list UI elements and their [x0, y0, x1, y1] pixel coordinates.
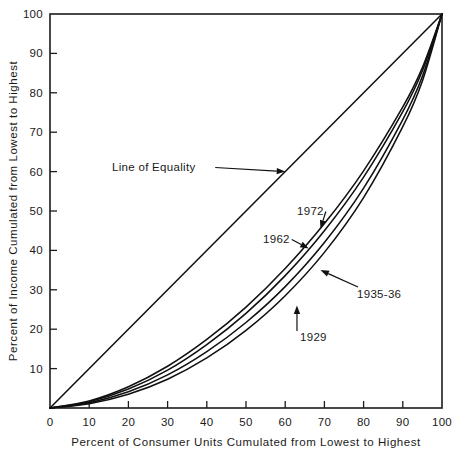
leader-arrowhead [294, 306, 300, 315]
annotation-leader-1929 [294, 306, 300, 331]
annotation-label-line-of-equality: Line of Equality [112, 161, 195, 173]
y-tick-label: 40 [30, 244, 43, 256]
annotation-leader-1962 [292, 240, 309, 249]
x-tick-label: 0 [47, 416, 54, 428]
x-tick-label: 40 [200, 416, 213, 428]
y-tick-label: 70 [30, 126, 43, 138]
y-tick-label: 20 [30, 323, 43, 335]
x-tick-label: 30 [161, 416, 174, 428]
y-tick-label: 30 [30, 284, 43, 296]
y-axis-title: Percent of Income Cumulated from Lowest … [7, 61, 19, 362]
x-axis-tick-labels: 0102030405060708090100 [47, 416, 452, 428]
x-tick-label: 70 [318, 416, 331, 428]
x-tick-label: 100 [432, 416, 452, 428]
y-tick-label: 10 [30, 363, 43, 375]
x-tick-label: 20 [122, 416, 135, 428]
annotation-leader-1935-36 [320, 270, 358, 287]
annotation-label-1929: 1929 [300, 331, 327, 343]
y-tick-label: 60 [30, 166, 43, 178]
annotation-label-1972: 1972 [297, 205, 324, 217]
leader-line [215, 168, 277, 172]
annotation-label-1962: 1962 [263, 233, 290, 245]
leader-line [292, 240, 301, 245]
x-tick-label: 80 [357, 416, 370, 428]
leader-arrowhead [320, 220, 326, 229]
y-tick-label: 50 [30, 205, 43, 217]
y-axis-tick-labels: 102030405060708090100 [23, 8, 43, 375]
annotation-leader-line-of-equality [215, 168, 285, 175]
curve-line-of-equality [50, 14, 442, 408]
annotation-label-1935-36: 1935-36 [357, 288, 401, 300]
y-axis-ticks [50, 53, 57, 368]
x-tick-label: 10 [82, 416, 95, 428]
x-tick-label: 90 [396, 416, 409, 428]
leader-arrowhead [320, 270, 329, 276]
x-axis-title: Percent of Consumer Units Cumulated from… [71, 436, 421, 448]
annotation-group: Line of Equality197219621935-361929 [112, 161, 401, 343]
x-tick-label: 60 [278, 416, 291, 428]
lorenz-curve-figure: 0102030405060708090100 10203040506070809… [0, 0, 457, 454]
leader-line [328, 274, 358, 287]
y-tick-label: 100 [23, 8, 43, 20]
y-tick-label: 80 [30, 87, 43, 99]
x-tick-label: 50 [239, 416, 252, 428]
y-tick-label: 90 [30, 47, 43, 59]
x-axis-ticks [89, 401, 403, 408]
curve-group [50, 14, 442, 408]
chart-canvas: 0102030405060708090100 10203040506070809… [0, 0, 457, 454]
